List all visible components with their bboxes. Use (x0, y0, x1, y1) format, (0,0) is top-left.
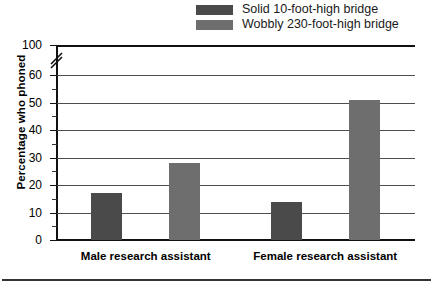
y-tick-minor (52, 89, 57, 90)
y-tick-label: 50 (29, 96, 42, 110)
axis-break-icon (49, 49, 65, 69)
bar (349, 100, 380, 240)
x-axis-label: Male research assistant (81, 250, 211, 262)
y-tick-major: 60 (50, 75, 57, 76)
y-axis-title: Percentage who phoned (15, 37, 27, 207)
y-tick-label: 10 (29, 206, 42, 220)
y-tick-label: 20 (29, 178, 42, 192)
footer-divider (2, 279, 431, 281)
x-axis-labels: Male research assistantFemale research a… (56, 250, 415, 270)
legend-swatch-solid-bridge (196, 5, 233, 15)
x-axis-label: Female research assistant (253, 250, 397, 262)
legend-item: Wobbly 230-foot-high bridge (196, 17, 430, 32)
legend-label-wobbly-bridge: Wobbly 230-foot-high bridge (242, 18, 399, 31)
y-tick-major: 30 (50, 158, 57, 159)
y-tick-minor (52, 226, 57, 227)
y-tick-minor (52, 199, 57, 200)
bar (91, 193, 122, 240)
y-tick-major: 40 (50, 130, 57, 131)
y-tick-major-top: 100 (50, 45, 57, 46)
y-tick-label: 30 (29, 151, 42, 165)
y-tick-minor (52, 171, 57, 172)
y-tick-label: 40 (29, 123, 42, 137)
y-tick-label: 100 (22, 38, 42, 52)
y-tick-major: 20 (50, 185, 57, 186)
bar (271, 202, 302, 241)
y-tick-minor (52, 144, 57, 145)
legend-swatch-wobbly-bridge (196, 20, 233, 30)
gridline-top (56, 45, 415, 47)
y-tick-major: 0 (50, 240, 57, 241)
gridline (56, 75, 415, 76)
y-tick-label: 60 (29, 68, 42, 82)
y-tick-minor (52, 116, 57, 117)
legend-label-solid-bridge: Solid 10-foot-high bridge (242, 3, 378, 16)
bar-chart: Percentage who phoned 0102030405060100 M… (0, 36, 433, 251)
y-tick-major: 10 (50, 213, 57, 214)
legend-item: Solid 10-foot-high bridge (196, 2, 430, 17)
plot-area: 0102030405060100 (56, 45, 415, 240)
bar (169, 163, 200, 240)
y-tick-major: 50 (50, 103, 57, 104)
y-tick-label: 0 (35, 233, 42, 247)
chart-legend: Solid 10-foot-high bridge Wobbly 230-foo… (196, 2, 430, 32)
